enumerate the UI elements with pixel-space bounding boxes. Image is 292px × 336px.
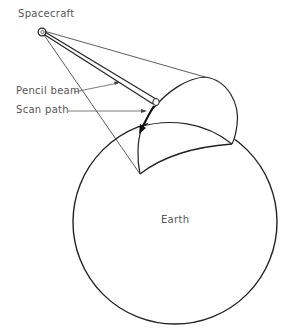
pencil-beam-leader-arrow [114, 82, 120, 86]
pencil-beam-tip [153, 99, 159, 106]
label-scan-path: Scan path [16, 104, 69, 115]
footprint-patch [140, 77, 237, 174]
label-spacecraft: Spacecraft [18, 8, 74, 19]
scan-path-leader-arrow [141, 109, 147, 113]
diagram-svg [0, 0, 292, 336]
spacecraft-icon [38, 28, 46, 36]
label-pencil-beam: Pencil beam [16, 85, 80, 96]
diagram-canvas: Spacecraft Pencil beam Scan path Earth [0, 0, 292, 336]
label-earth: Earth [161, 214, 189, 225]
